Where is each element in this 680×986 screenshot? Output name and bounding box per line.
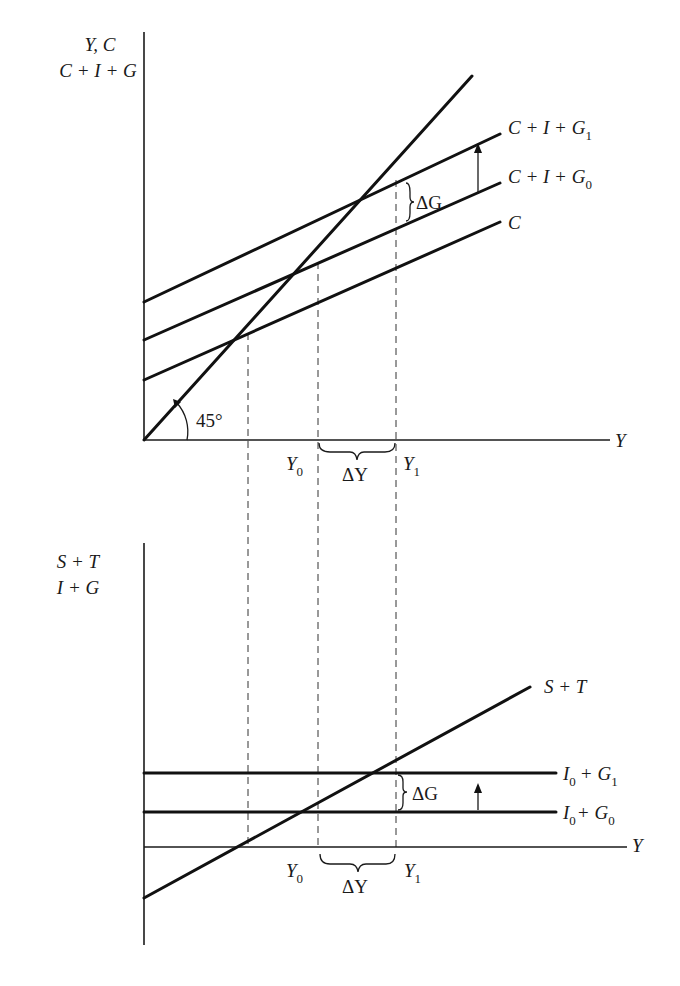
delta-g-brace	[406, 183, 414, 221]
top-delta-y-brace	[319, 443, 395, 460]
bottom-y1-label: Y1	[404, 860, 421, 886]
label-i0-g1: I0+ G1	[562, 763, 618, 789]
top-delta-y-label: ΔY	[342, 464, 368, 485]
keynesian-cross-diagram: Y, C C + I + G Y 45° C + I + G1 C + I + …	[0, 0, 680, 986]
label-c: C	[508, 212, 521, 233]
aggregate-expenditure-g0-line	[144, 183, 500, 340]
bottom-delta-g-brace	[398, 775, 407, 810]
label-cig1: C + I + G1	[508, 117, 592, 143]
bottom-x-axis-label: Y	[632, 835, 645, 856]
consumption-line-c	[144, 222, 500, 380]
delta-g-label: ΔG	[416, 192, 442, 213]
bottom-y-axis-label-line2: I + G	[56, 577, 100, 598]
label-cig0: C + I + G0	[508, 166, 592, 192]
leakages-s-plus-t-line	[144, 687, 530, 898]
top-y1-label: Y1	[403, 453, 420, 479]
forty-five-degree-line	[144, 76, 472, 440]
bottom-y0-label: Y0	[286, 860, 303, 886]
angle-arc	[177, 403, 188, 440]
bottom-panel: S + T I + G Y S + T I0+ G1 I0+ G0 ΔG Y0 …	[56, 543, 645, 945]
top-x-axis-label: Y	[615, 430, 628, 451]
angle-label: 45°	[196, 410, 223, 431]
top-y-axis-label-line2: C + I + G	[59, 60, 137, 81]
bottom-delta-y-brace	[320, 854, 395, 872]
label-i0-g0: I0+ G0	[562, 802, 615, 828]
top-y-axis-label-line1: Y, C	[85, 34, 116, 55]
aggregate-expenditure-g1-line	[144, 134, 500, 302]
bottom-y-axis-label-line1: S + T	[57, 551, 101, 572]
bottom-delta-y-label: ΔY	[342, 876, 368, 897]
bottom-delta-g-label: ΔG	[412, 783, 438, 804]
label-s-plus-t: S + T	[544, 676, 588, 697]
top-y0-label: Y0	[286, 453, 303, 479]
bottom-shift-arrow-up-icon	[474, 783, 482, 793]
